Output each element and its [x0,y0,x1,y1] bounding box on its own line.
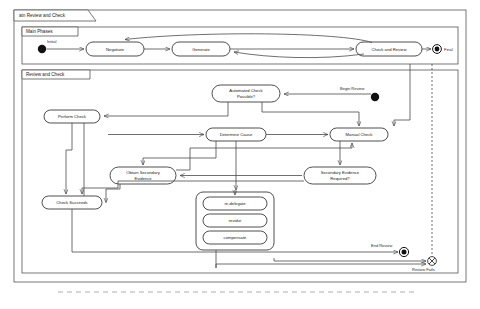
frame-review-and-check-label: Review and Check [26,72,65,77]
initial-node [38,45,46,53]
node-check-succeeds-label: Check Succeeds [56,200,87,205]
node-obtain-secondary-evidence-label-line2: Evidence [134,176,152,181]
end-review-label: End Review [371,243,392,248]
node-secondary-evidence-required-label-line1: Secondary Evidence [321,170,360,175]
node-compensate-label: compensate [224,235,247,240]
node-secondary-evidence-required-label-line2: Required? [330,176,350,181]
final-node-label: Final [444,47,453,52]
frame-main-phases-label: Main Phases [26,29,53,34]
node-determine-cause-label: Determine Cause [220,132,253,137]
review-fails-label: Review Fails [412,267,435,272]
node-generate-label: Generate [192,47,210,52]
activity-diagram: atn Review and Check Main Phases Initial… [0,0,480,309]
node-negotiate-label: Negotiate [106,47,125,52]
final-node-inner [435,47,440,52]
node-manual-check-label: Manual Check [346,132,374,137]
begin-review-label: Begin Review [340,86,365,91]
node-re-delegate-label: re-delegate [224,201,246,206]
diagram-canvas: atn Review and Check Main Phases Initial… [0,0,480,309]
begin-review-node [371,93,379,101]
node-obtain-secondary-evidence-label-line1: Obtain Secondary [126,170,160,175]
activity-frame-label: atn Review and Check [19,13,66,18]
node-perform-check-label: Perform Check [58,114,87,119]
node-automated-check-possible-label-line2: Possible? [237,94,256,99]
end-review-node-inner [402,250,407,255]
node-check-and-review-label: Check and Review [372,47,408,52]
node-revoke-label: revoke [229,218,242,223]
node-automated-check-possible-label-line1: Automated Check [229,88,263,93]
initial-node-label: Initial [47,39,56,44]
